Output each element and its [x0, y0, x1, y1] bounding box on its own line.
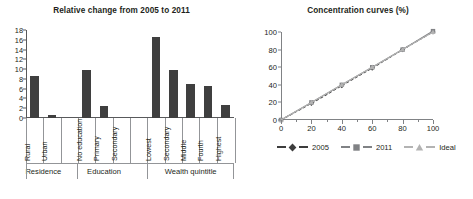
- concentration-curve-lines: [281, 32, 433, 120]
- relative-change-chart-panel: Relative change from 2005 to 2011 024681…: [0, 0, 243, 199]
- figure-root: Relative change from 2005 to 2011 024681…: [0, 0, 473, 199]
- right-x-minor-tick: [387, 120, 388, 122]
- group-separator: [77, 163, 78, 179]
- right-y-tick-mark: [278, 32, 282, 33]
- category-cell: Secondary: [113, 118, 131, 163]
- category-label: Primary: [92, 136, 101, 161]
- category-cell: Urban: [43, 118, 61, 163]
- right-x-tick-mark: [372, 120, 373, 124]
- group-label: Wealth quintitle: [147, 163, 234, 179]
- legend-marker-diamond-icon: [288, 143, 297, 152]
- bar: [186, 84, 195, 118]
- category-label: Lowest: [144, 138, 153, 161]
- right-x-tick-label: 40: [338, 124, 346, 133]
- group-separator: [233, 163, 234, 179]
- right-x-minor-tick: [296, 120, 297, 122]
- category-label: Urban: [40, 141, 49, 161]
- category-label: Secondary: [110, 127, 119, 161]
- right-x-tick-mark: [281, 120, 282, 124]
- left-y-tick-mark: [23, 59, 26, 60]
- legend-line: [277, 146, 286, 147]
- category-cell: Highest: [217, 118, 236, 163]
- legend-line: [426, 146, 435, 147]
- legend-item-ideal: Ideal: [404, 143, 455, 152]
- right-y-tick-mark: [278, 67, 282, 68]
- legend-item-2005: 2005: [277, 143, 329, 152]
- legend-label: 2005: [310, 143, 329, 152]
- category-label: No education: [75, 119, 84, 161]
- right-x-tick-label: 0: [279, 124, 283, 133]
- left-y-tick-mark: [23, 49, 26, 50]
- bar: [204, 86, 213, 118]
- left-group-label-row: ResidenceEducationWealth quintitle: [26, 163, 234, 179]
- right-x-minor-tick: [327, 120, 328, 122]
- left-y-tick-mark: [23, 69, 26, 70]
- left-y-tick-mark: [23, 78, 26, 79]
- legend-line: [363, 146, 372, 147]
- right-chart-legend: 20052011Ideal: [277, 140, 447, 154]
- legend-marker-square-icon: [352, 143, 361, 152]
- right-x-tick-label: 80: [398, 124, 406, 133]
- right-x-tick-mark: [311, 120, 312, 124]
- group-separator: [147, 163, 148, 179]
- left-y-tick-label: 12: [15, 55, 23, 64]
- right-y-tick-label: 100: [264, 28, 277, 37]
- left-y-tick-mark: [23, 39, 26, 40]
- left-y-tick-label: 10: [15, 65, 23, 74]
- right-x-tick-label: 60: [368, 124, 376, 133]
- left-y-axis: [26, 30, 27, 118]
- legend-line: [341, 146, 350, 147]
- left-y-tick-label: 16: [15, 35, 23, 44]
- right-y-tick-label: 80: [269, 45, 277, 54]
- right-x-tick-mark: [433, 120, 434, 124]
- left-category-label-cage: RuralUrbanNo educationPrimarySecondaryLo…: [26, 118, 234, 163]
- bar: [169, 70, 178, 118]
- series-line-ideal: [281, 32, 433, 120]
- left-y-tick-mark: [23, 108, 26, 109]
- left-chart-title: Relative change from 2005 to 2011: [0, 6, 243, 15]
- right-y-tick-label: 0: [273, 116, 277, 125]
- right-y-tick-label: 20: [269, 98, 277, 107]
- category-label: Secondary: [162, 127, 171, 161]
- legend-marker-triangle-icon: [415, 143, 424, 152]
- right-y-tick-label: 40: [269, 80, 277, 89]
- legend-label: Ideal: [437, 143, 455, 152]
- right-y-tick-mark: [278, 102, 282, 103]
- right-y-tick-label: 60: [269, 63, 277, 72]
- right-x-tick-label: 100: [427, 124, 440, 133]
- bar: [100, 106, 109, 118]
- right-y-tick-mark: [278, 84, 282, 85]
- left-y-tick-label: 14: [15, 45, 23, 54]
- legend-line: [404, 146, 413, 147]
- group-label: Education: [78, 163, 130, 179]
- bar: [82, 70, 91, 118]
- right-plot-area: 020406080100020406080100: [281, 32, 433, 120]
- left-y-tick-mark: [23, 30, 26, 31]
- bar: [152, 37, 161, 118]
- left-plot-area: 024681012141618: [26, 30, 234, 118]
- legend-line: [299, 146, 308, 147]
- right-chart-title: Concentration curves (%): [243, 6, 473, 15]
- clipped-footer-legend: [18, 191, 178, 197]
- legend-label: 2011: [374, 143, 392, 152]
- category-label: Middle: [179, 140, 188, 161]
- right-y-tick-mark: [278, 49, 282, 50]
- category-label: Rural: [23, 144, 32, 161]
- concentration-curves-panel: Concentration curves (%) 020406080100020…: [243, 0, 473, 199]
- bar: [30, 76, 39, 118]
- category-label: Fourth: [196, 140, 205, 161]
- group-label: Residence: [26, 163, 61, 179]
- left-y-tick-label: 18: [15, 26, 23, 35]
- right-x-minor-tick: [357, 120, 358, 122]
- category-label: Highest: [214, 137, 223, 161]
- right-x-tick-mark: [342, 120, 343, 124]
- left-y-tick-mark: [23, 98, 26, 99]
- left-y-tick-mark: [23, 88, 26, 89]
- legend-item-2011: 2011: [341, 143, 392, 152]
- group-separator: [26, 163, 27, 179]
- right-x-tick-mark: [403, 120, 404, 124]
- right-x-minor-tick: [418, 120, 419, 122]
- bar: [221, 105, 230, 118]
- right-x-tick-label: 20: [307, 124, 315, 133]
